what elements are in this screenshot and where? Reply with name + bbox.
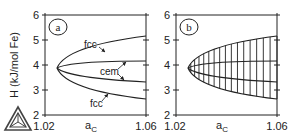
fcc-lower-annotation: fcc — [90, 98, 103, 109]
x-axis-label: aC — [85, 119, 97, 134]
x-axis-label-b: aC — [216, 119, 228, 134]
y-tick-3: 3 — [33, 84, 39, 96]
thermo-calc-triangle-logo-icon — [5, 107, 31, 130]
panel-b-tie-lines — [191, 36, 277, 99]
y-tick-4-b: 4 — [164, 59, 170, 71]
y-tick-5: 5 — [33, 34, 39, 46]
y-tick-3-b: 3 — [164, 84, 170, 96]
y-axis-label: H (kJ/mol Fe) — [8, 32, 20, 98]
cem-annotation: cem — [100, 66, 119, 77]
fcc-upper-curve — [57, 36, 146, 68]
panel-b: 6 5 4 3 2 1.02 1.06 aC b — [164, 9, 288, 134]
y-tick-6: 6 — [33, 9, 39, 21]
x-tick-1-02-b: 1.02 — [164, 120, 185, 132]
y-tick-5-b: 5 — [164, 34, 170, 46]
panel-a: 6 5 4 3 2 1.02 1.06 aC a fcc cem fcc — [33, 9, 157, 134]
chart-figure: H (kJ/mol Fe) 6 5 4 3 2 1.02 1.06 aC a — [0, 0, 296, 140]
fcc-upper-annotation: fcc — [84, 39, 97, 50]
y-tick-6-b: 6 — [164, 9, 170, 21]
x-tick-1-06-b: 1.06 — [266, 120, 287, 132]
x-tick-1-06: 1.06 — [135, 120, 156, 132]
x-tick-1-02: 1.02 — [33, 120, 54, 132]
panel-b-label: b — [186, 21, 192, 33]
y-tick-4: 4 — [33, 59, 39, 71]
panel-a-label: a — [56, 21, 61, 33]
